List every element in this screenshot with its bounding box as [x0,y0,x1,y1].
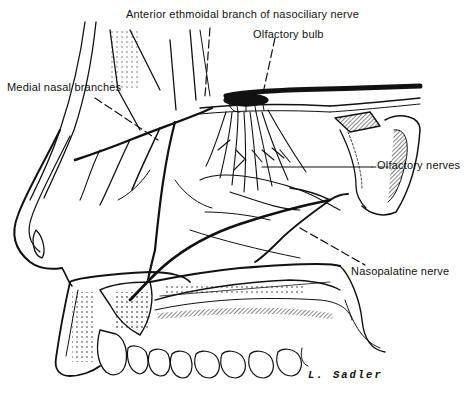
label-anterior-ethmoidal: Anterior ethmoidal branch of nasociliary… [126,8,359,20]
label-olfactory-nerves: Olfactory nerves [377,159,460,171]
label-medial-nasal-branches: Medial nasal branches [7,81,121,93]
label-olfactory-bulb: Olfactory bulb [253,28,324,40]
anatomy-drawing [0,0,471,395]
nasal-nerve-illustration: Anterior ethmoidal branch of nasociliary… [0,0,471,395]
artist-signature: L. Sadler [308,369,383,381]
label-nasopalatine-nerve: Nasopalatine nerve [351,265,449,277]
